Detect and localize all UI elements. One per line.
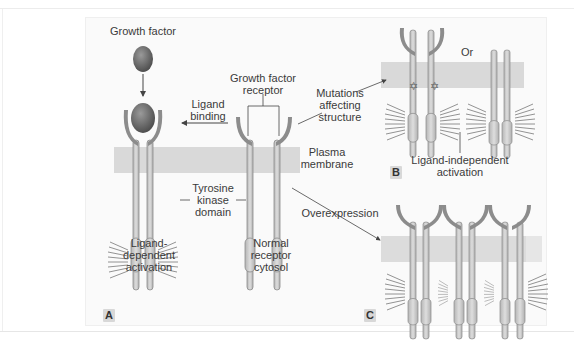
panel-a: Growth factor Growth factor receptor Lig… xyxy=(103,25,353,322)
receptor-bracket xyxy=(248,106,279,136)
label-growth-factor: Growth factor xyxy=(110,25,176,37)
label-mut-3: structure xyxy=(319,111,362,123)
bound-growth-factor xyxy=(131,103,155,133)
label-li-1: Ligand-independent xyxy=(411,154,508,166)
label-pm-1: Plasma xyxy=(309,146,347,158)
label-overexpression: Overexpression xyxy=(301,207,378,219)
plasma-membrane-b xyxy=(381,62,524,88)
label-tk-1: Tyrosine xyxy=(192,182,234,194)
label-mut-1: Mutations xyxy=(316,87,364,99)
label-ligand-binding-1: Ligand xyxy=(191,98,224,110)
label-normal-1: Normal xyxy=(253,237,288,249)
label-ligand-binding-2: binding xyxy=(190,110,225,122)
panel-tag-a: A xyxy=(103,309,115,322)
mutation-star-icon: ✡ xyxy=(409,80,418,92)
svg-text:A: A xyxy=(105,309,113,321)
label-tk-2: kinase xyxy=(197,194,229,206)
label-gfr-2: receptor xyxy=(243,84,284,96)
normal-arm-right xyxy=(276,117,292,146)
mutation-star-icon: ✡ xyxy=(430,80,439,92)
label-mut-2: affecting xyxy=(319,99,360,111)
svg-text:B: B xyxy=(392,166,400,178)
label-pm-2: membrane xyxy=(301,158,354,170)
label-or: Or xyxy=(461,46,474,58)
plasma-membrane-a xyxy=(114,147,300,173)
panel-c: Overexpression C xyxy=(292,188,548,339)
panel-tag-c: C xyxy=(364,309,376,322)
label-gfr-1: Growth factor xyxy=(230,72,296,84)
label-li-2: activation xyxy=(437,166,483,178)
svg-text:C: C xyxy=(366,309,374,321)
label-normal-2: receptor xyxy=(251,249,292,261)
label-normal-3: cytosol xyxy=(254,261,288,273)
normal-arm-left xyxy=(236,117,252,146)
panel-tag-b: B xyxy=(390,166,402,179)
rtk-activation-diagram: Growth factor Growth factor receptor Lig… xyxy=(0,0,574,340)
label-tk-3: domain xyxy=(195,206,231,218)
label-ld-2: dependent xyxy=(123,249,175,261)
label-ld-3: activation xyxy=(126,261,172,273)
label-ld-1: Ligand- xyxy=(131,237,168,249)
growth-factor-ball xyxy=(133,46,153,72)
